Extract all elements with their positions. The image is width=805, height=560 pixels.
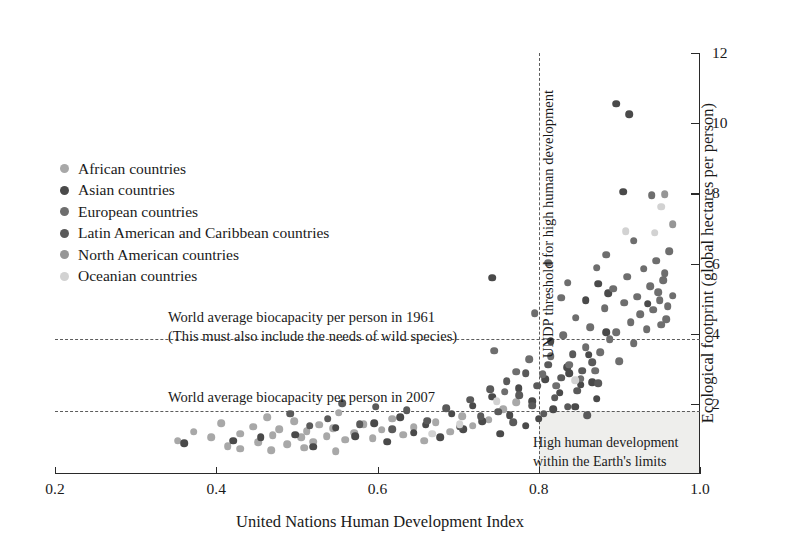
y-tick: [691, 53, 700, 54]
scatter-point: [669, 292, 677, 300]
scatter-point: [651, 229, 659, 237]
scatter-point: [424, 417, 432, 425]
legend-item-label: European countries: [78, 203, 198, 221]
legend-item-label: Latin American and Caribbean countries: [78, 224, 329, 242]
scatter-point: [275, 425, 283, 433]
scatter-point: [658, 203, 666, 211]
scatter-point: [487, 385, 495, 393]
scatter-point: [578, 367, 586, 375]
scatter-point: [661, 190, 669, 198]
scatter-point: [388, 415, 396, 423]
reference-line-world-biocapacity-2007: [55, 411, 700, 412]
scatter-point: [316, 421, 324, 429]
scatter-point: [516, 391, 524, 399]
scatter-point: [559, 332, 567, 340]
scatter-point: [341, 436, 349, 444]
scatter-point: [522, 422, 530, 430]
scatter-point: [378, 426, 386, 434]
scatter-point: [572, 314, 580, 322]
scatter-point: [624, 273, 632, 281]
quadrant-line1: High human development: [533, 434, 678, 453]
x-axis-title: United Nations Human Development Index: [0, 512, 760, 532]
scatter-point: [269, 432, 277, 440]
scatter-point: [593, 264, 601, 272]
scatter-point: [661, 270, 669, 278]
scatter-point: [637, 311, 645, 319]
scatter-point: [659, 277, 667, 285]
scatter-point: [666, 247, 674, 255]
scatter-point: [612, 328, 620, 336]
scatter-point: [291, 431, 299, 439]
scatter-point: [432, 418, 440, 426]
scatter-point: [420, 437, 428, 445]
legend-item[interactable]: Oceanian countries: [60, 266, 329, 288]
x-tick: [216, 467, 217, 474]
biocapacity-2007-line1: World average biocapacity per person in …: [168, 388, 435, 407]
legend-item[interactable]: European countries: [60, 201, 329, 223]
scatter-point: [291, 418, 299, 426]
scatter-point: [512, 398, 520, 406]
scatter-point: [496, 430, 504, 438]
scatter-point: [324, 415, 332, 423]
legend-item-label: North American countries: [78, 246, 239, 264]
quadrant-line2: within the Earth's limits: [533, 453, 678, 472]
scatter-point: [503, 377, 511, 385]
legend-item[interactable]: Asian countries: [60, 180, 329, 202]
scatter-point: [593, 395, 601, 403]
scatter-point: [332, 424, 340, 432]
scatter-point: [501, 388, 509, 396]
scatter-point: [400, 431, 408, 439]
scatter-point: [640, 265, 648, 273]
scatter-point: [512, 368, 520, 376]
scatter-point: [609, 285, 617, 293]
x-tick-label: 1.0: [690, 480, 709, 498]
scatter-point: [620, 188, 628, 196]
scatter-point: [669, 220, 677, 228]
scatter-point: [625, 111, 633, 119]
scatter-point: [495, 408, 503, 416]
scatter-point: [595, 380, 603, 388]
scatter-point: [622, 227, 630, 235]
scatter-point: [388, 425, 396, 433]
biocapacity-1961-line2: (This must also include the needs of wil…: [168, 327, 457, 346]
scatter-point: [208, 433, 216, 441]
legend-item-label: Asian countries: [78, 181, 175, 199]
scatter-point: [558, 374, 566, 382]
scatter-point: [446, 428, 454, 436]
scatter-point: [529, 402, 537, 410]
undp-threshold-annotation: UNDP threshold for high human developmen…: [540, 90, 557, 358]
scatter-point: [283, 440, 291, 448]
scatter-point: [369, 434, 377, 442]
scatter-point: [583, 411, 591, 419]
scatter-point: [564, 279, 572, 287]
scatter-point: [456, 420, 464, 428]
scatter-point: [493, 397, 501, 405]
legend-item[interactable]: African countries: [60, 158, 329, 180]
legend-marker-icon: [60, 186, 69, 195]
scatter-point: [522, 369, 530, 377]
biocapacity-1961-annotation: World average biocapacity per person in …: [168, 308, 457, 346]
legend-item[interactable]: North American countries: [60, 244, 329, 266]
scatter-point: [488, 274, 496, 282]
scatter-point: [540, 410, 548, 418]
scatter-point: [332, 447, 340, 455]
scatter-point: [466, 396, 474, 404]
scatter-point: [585, 351, 593, 359]
scatter-point: [606, 335, 614, 343]
scatter-point: [648, 191, 656, 199]
scatter-point: [469, 422, 477, 430]
legend-marker-icon: [60, 229, 69, 238]
scatter-point: [237, 445, 245, 453]
x-tick-label: 0.8: [529, 480, 548, 498]
legend-item[interactable]: Latin American and Caribbean countries: [60, 223, 329, 245]
scatter-point: [553, 382, 561, 390]
scatter-point: [539, 370, 547, 378]
scatter-point: [646, 283, 654, 291]
scatter-point: [656, 297, 664, 305]
scatter-point: [549, 405, 557, 413]
scatter-point: [653, 257, 661, 265]
scatter-point: [630, 340, 638, 348]
scatter-point: [217, 419, 225, 427]
x-tick-label: 0.6: [368, 480, 387, 498]
scatter-point: [396, 413, 404, 421]
